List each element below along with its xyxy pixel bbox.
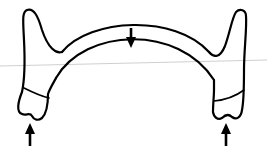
- arch-inner: [56, 39, 214, 80]
- right-tooth: [209, 10, 246, 119]
- left-force-arrow-up: [25, 123, 35, 146]
- right-force-arrow-up: [221, 123, 231, 146]
- guide-line: [0, 60, 267, 66]
- left-tooth-crown-line: [24, 88, 49, 98]
- center-force-arrow-down: [126, 28, 136, 48]
- dental-arch-diagram: [0, 0, 267, 155]
- right-tooth-crown-line: [214, 90, 244, 101]
- right-tooth-outline: [209, 10, 246, 119]
